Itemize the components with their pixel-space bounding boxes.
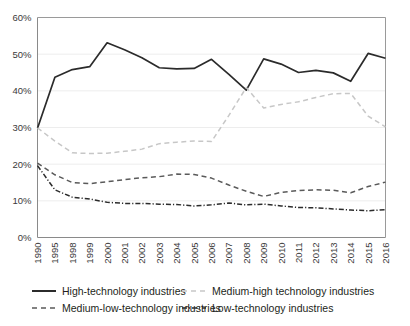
grid-lines	[38, 18, 386, 201]
x-axis-tick-label: 2014	[345, 243, 356, 264]
legend-item-high-technology-industries: High-technology industries	[0, 282, 173, 299]
y-axis-tick-labels: 0%10%20%30%40%50%60%	[12, 12, 32, 243]
chart-container: 0%10%20%30%40%50%60% 1990199519981999200…	[0, 0, 410, 326]
y-axis-tick-label: 40%	[12, 85, 32, 96]
y-axis-tick-label: 30%	[12, 122, 32, 133]
legend-swatch-solid-icon	[31, 286, 57, 296]
legend-swatch-dash-dot-icon	[181, 303, 207, 313]
x-axis-tick-label: 2004	[171, 243, 182, 264]
x-axis-tick-label: 1999	[84, 243, 95, 264]
legend-label-low-technology-industries: Low-technology industries	[212, 302, 333, 314]
legend-swatch-dashed-dark-icon	[31, 303, 57, 313]
legend-label-medium-high-technology-industries: Medium-high technology industries	[212, 285, 374, 297]
chart-svg: 0%10%20%30%40%50%60% 1990199519981999200…	[0, 0, 410, 300]
legend-label-high-technology-industries: High-technology industries	[62, 285, 186, 297]
y-axis-tick-label: 50%	[12, 49, 32, 60]
data-series-lines	[38, 43, 386, 211]
x-axis-tick-label: 2006	[206, 243, 217, 264]
legend-row-1: High-technology industries Medium-high t…	[0, 282, 410, 299]
x-axis-tick-label: 2005	[189, 243, 200, 264]
legend-item-medium-low-technology-industries: Medium-low-technology industries	[0, 299, 173, 316]
legend-item-medium-high-technology-industries: Medium-high technology industries	[173, 282, 374, 299]
x-axis-tick-label: 2000	[102, 243, 113, 264]
x-axis-tick-labels: 1990199519981999200020012002200320042005…	[32, 243, 391, 264]
x-axis-tick-label: 1998	[67, 243, 78, 264]
x-axis-tick-label: 2011	[293, 243, 304, 263]
y-axis-tick-label: 20%	[12, 159, 32, 170]
legend-item-low-technology-industries: Low-technology industries	[173, 299, 333, 316]
x-axis-tick-label: 2016	[380, 243, 391, 264]
y-axis-tick-label: 0%	[18, 232, 32, 243]
y-axis-tick-label: 10%	[12, 195, 32, 206]
x-axis-tick-label: 2007	[223, 243, 234, 264]
legend-swatch-dashed-light-icon	[181, 286, 207, 296]
x-axis-tick-label: 1990	[32, 243, 43, 264]
series-line	[38, 43, 386, 128]
x-axis-tick-label: 2009	[258, 243, 269, 264]
chart-legend: High-technology industries Medium-high t…	[0, 282, 410, 326]
x-axis-tick-label: 2002	[136, 243, 147, 264]
line-chart-plot: 0%10%20%30%40%50%60% 1990199519981999200…	[0, 0, 410, 300]
x-axis-tick-label: 2003	[154, 243, 165, 264]
series-line	[38, 163, 386, 196]
x-axis-tick-label: 1995	[49, 243, 60, 264]
x-axis-tick-label: 2012	[310, 243, 321, 264]
series-line	[38, 88, 386, 154]
x-axis-tick-label: 2008	[241, 243, 252, 264]
x-axis-tick-label: 2015	[363, 243, 374, 264]
series-line	[38, 166, 386, 211]
x-axis-tick-label: 2001	[119, 243, 130, 264]
x-axis-tick-label: 2010	[276, 243, 287, 264]
legend-row-2: Medium-low-technology industries Low-tec…	[0, 299, 410, 316]
y-axis-tick-label: 60%	[12, 12, 32, 23]
x-axis-tick-label: 2013	[328, 243, 339, 264]
